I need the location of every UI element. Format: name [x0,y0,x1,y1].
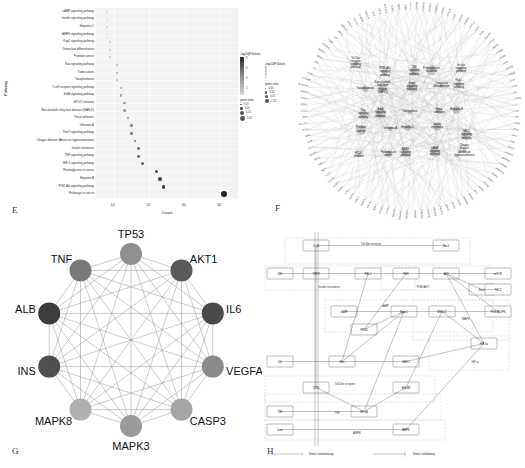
cnet-gene-label: PRKCA [392,208,396,217]
panel-pathway-diagram: Toll-like receptorInsulin resistancePI3K… [263,228,525,468]
gridline-v [220,8,221,198]
cnet-pathway-label: Proteoglycansin cancer [423,66,441,73]
gridline-v [185,8,186,198]
cnet-legend: -log10(P.Value) 8642 gene ratio 0.050.10… [265,62,291,103]
cnet-gene-label: IKBKB [508,71,516,76]
panel-letter-g: G [12,446,19,456]
gridline-h [96,50,238,51]
pathway-label: Hepatitis C [80,25,94,28]
cnet-size-dot [265,95,268,98]
cnet-edge [333,44,381,113]
gridline-h [96,141,238,142]
ppi-node-label: CASP3 [190,415,226,427]
gridline-h [96,118,238,119]
cnet-gene-label: TLR4 [321,167,328,173]
size-legend-label: 0.05 [244,103,249,106]
ppi-node [38,302,60,324]
size-legend-row: 0.10 [240,107,262,110]
cnet-edge [385,65,504,73]
gridline-h [96,156,238,157]
dotplot-point [130,124,133,127]
cnet-gene-label: CASP9 [422,2,426,11]
cnet-edge [424,11,457,110]
cnet-gene-label: HRAS [492,43,500,50]
cnet-gene-label: PIK3R1 [413,210,416,219]
pathway-group-label: cAMP [381,304,389,308]
cnet-gene-label: ALB [307,139,313,143]
cnet-pathway-label: Pathways incancer [381,150,396,157]
cnet-pathway-label: AMPKsignalingpathway [400,147,411,157]
dotplot-point [109,49,111,51]
gridline-h [96,42,238,43]
pathway-label: HTLV-I infection [74,101,94,104]
cnet-gene-label: CCL2 [301,109,308,112]
color-tick-label: 2 [246,87,247,90]
cnet-gene-label: NFKBIA [462,196,469,206]
cnet-edge [359,155,414,210]
cnet-gene-label: IGF1 [503,60,510,65]
pathway-label: Ras signaling pathway [65,63,94,66]
cnet-gene-label: SOD2 [390,5,394,13]
cnet-gene-label: CREB1 [440,5,446,14]
ppi-edge [81,270,213,366]
gridline-h [96,111,238,112]
cnet-pathway-label: Rap1signalingpathway [453,78,464,88]
cnet-size-dot [265,88,266,89]
pathway-group-label: Insulin resistance [318,285,340,289]
dotplot-point [130,132,133,135]
dotplot-point [137,155,140,158]
cnet-edge [359,135,467,155]
pathway-edge [406,344,484,362]
cnet-gene-label: SLC2A4 [383,3,388,13]
gridline-h [96,179,238,180]
cnet-gene-label: PPARA [357,13,364,22]
cnet-gene-label: MTOR [477,185,484,193]
cnet-gene-label: PIK3CA [438,206,443,216]
cnet-edge [311,136,465,151]
cnet-gene-label: PLAU [352,18,358,25]
size-legend-dot [240,116,245,121]
cnet-pathway-label: HTLV-Iinfection [354,151,365,158]
ppi-node [70,259,92,281]
color-bar [240,57,244,95]
cnet-gene-label: ITGB1 [326,38,334,45]
cnet-edge [339,113,380,182]
ppi-node-label: INS [18,365,36,377]
size-legend-row: 0.05 [240,103,262,106]
cnet-gene-label: TIMP1 [396,3,400,11]
ppi-node [70,399,92,421]
cnet-gene-label: CXCL8 [446,8,452,17]
size-legend-dot [240,107,243,110]
cnet-gene-label: SMAD3 [300,90,310,94]
cnet-gene-label: MPO [337,30,343,36]
cnet-pathway-label: PI3K-Aktsignalingpathway [380,66,391,76]
pathway-group-label: PI3K/AKT [417,285,430,289]
ppi-node-label: TNF [51,253,73,265]
cnet-pathway-label: Toll-likereceptorsignalingpathway [350,56,361,70]
cnet-gene-label: NRAS [444,204,449,212]
pathway-edge [446,274,482,290]
cnet-edge [320,86,442,159]
cnet-size-dot [265,91,267,93]
node-hif1a-label: HIF-1α [480,342,489,346]
cnet-gene-label: FGF2 [474,25,481,32]
gridline-h [96,133,238,134]
cnet-edge [461,69,513,130]
cnet-gene-label: PIK3CB [432,207,437,217]
cnet-size-dot [265,99,269,103]
cnet-size-row: 0.15 [265,95,291,98]
ppi-node [202,356,224,378]
pathway-label: FoxO signaling pathway [63,131,94,134]
cnet-gene-label: PRKCB [363,10,369,19]
cnet-gene-label: IL4 [515,103,519,106]
size-legend-row: 0.20 [240,116,262,121]
panel-letter-e: E [12,205,18,215]
dotplot-point [158,177,162,181]
pathway-label: Insulin signaling pathway [62,17,94,20]
color-tick-label: 4 [246,77,247,80]
cnet-gene-label: MAPK3 [502,156,511,163]
cnet-gene-label: TNF [318,162,324,167]
x-tick-label: 10 [111,203,115,207]
cnet-gene-label: TLR2 [324,171,331,178]
cnet-color-ticks: 8642 [265,67,291,79]
